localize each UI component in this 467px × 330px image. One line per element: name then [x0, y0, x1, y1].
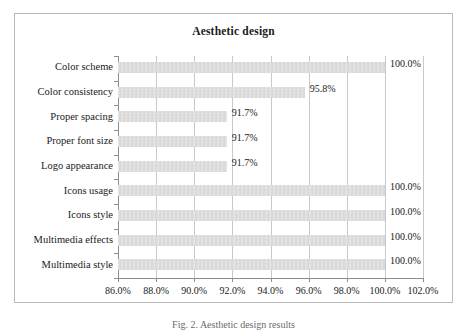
chart-title: Aesthetic design: [15, 25, 452, 37]
bar-row: 91.7%: [118, 155, 423, 180]
bar-value-label: 95.8%: [310, 83, 336, 94]
x-axis-tick: [385, 278, 386, 282]
x-axis-tick: [118, 278, 119, 282]
y-axis-category-label: Proper spacing: [50, 111, 113, 122]
bar-value-label: 100.0%: [390, 181, 421, 192]
bar-value-label: 91.7%: [232, 132, 258, 143]
chart-frame: Aesthetic design Color schemeColor consi…: [14, 13, 453, 303]
x-axis-tick: [423, 278, 424, 282]
y-axis-category-label: Color consistency: [37, 86, 113, 97]
x-axis-label: 88.0%: [143, 285, 169, 296]
y-axis-category-label: Multimedia effects: [34, 234, 113, 245]
bar-row: 100.0%: [118, 253, 423, 278]
x-axis-tick: [309, 278, 310, 282]
figure-caption: Fig. 2. Aesthetic design results: [0, 319, 467, 330]
gridline-1020: [423, 56, 424, 278]
x-axis-label: 94.0%: [258, 285, 284, 296]
y-axis-category-label: Proper font size: [47, 135, 113, 146]
bar-row: 100.0%: [118, 229, 423, 254]
bar[interactable]: [118, 259, 385, 270]
x-axis-label: 102.0%: [408, 285, 439, 296]
x-axis-tick: [232, 278, 233, 282]
bar-value-label: 91.7%: [232, 157, 258, 168]
bar-row: 91.7%: [118, 105, 423, 130]
x-axis-label: 90.0%: [181, 285, 207, 296]
bar[interactable]: [118, 87, 305, 98]
x-axis-label: 96.0%: [296, 285, 322, 296]
bar[interactable]: [118, 235, 385, 246]
bar[interactable]: [118, 161, 227, 172]
bar-value-label: 100.0%: [390, 206, 421, 217]
plot-area: 100.0%95.8%91.7%91.7%91.7%100.0%100.0%10…: [118, 56, 423, 278]
bar[interactable]: [118, 136, 227, 147]
y-axis-category-label: Icons style: [68, 209, 113, 220]
x-axis-tick: [194, 278, 195, 282]
y-axis-category-label: Color scheme: [55, 61, 113, 72]
y-axis-category-label: Multimedia style: [42, 259, 113, 270]
x-axis-label: 98.0%: [334, 285, 360, 296]
x-axis-tick: [156, 278, 157, 282]
bar-row: 100.0%: [118, 56, 423, 81]
bar[interactable]: [118, 111, 227, 122]
bar-row: 91.7%: [118, 130, 423, 155]
bar[interactable]: [118, 185, 385, 196]
bar[interactable]: [118, 210, 385, 221]
x-axis-label: 100.0%: [369, 285, 400, 296]
x-axis-tick: [347, 278, 348, 282]
bar[interactable]: [118, 62, 385, 73]
y-axis-category-label: Icons usage: [64, 185, 113, 196]
bar-row: 95.8%: [118, 81, 423, 106]
bar-row: 100.0%: [118, 179, 423, 204]
bar-row: 100.0%: [118, 204, 423, 229]
x-axis-label: 92.0%: [219, 285, 245, 296]
bar-value-label: 91.7%: [232, 107, 258, 118]
bar-value-label: 100.0%: [390, 231, 421, 242]
y-axis-category-label: Logo appearance: [41, 160, 113, 171]
x-axis-tick: [271, 278, 272, 282]
bar-value-label: 100.0%: [390, 58, 421, 69]
y-axis-tick: [114, 56, 118, 57]
x-axis-label: 86.0%: [105, 285, 131, 296]
bar-value-label: 100.0%: [390, 255, 421, 266]
y-axis-category-labels: Color schemeColor consistencyProper spac…: [33, 56, 113, 278]
